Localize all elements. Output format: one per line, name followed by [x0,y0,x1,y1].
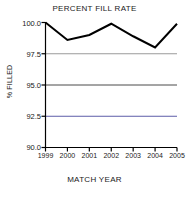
x-tick-label: 2002 [103,152,119,159]
chart-canvas [0,0,189,201]
line-chart: PERCENT FILL RATE % FILLED 100.0 97.5 95… [0,0,189,201]
x-tick-label: 1999 [38,152,54,159]
x-axis-label: MATCH YEAR [0,175,189,184]
data-series-line [46,23,178,48]
x-tick-marks [46,148,178,152]
x-tick-label: 2000 [60,152,76,159]
x-tick-label: 2001 [82,152,98,159]
gridlines [46,54,178,148]
x-tick-label: 2004 [147,152,163,159]
x-tick-label: 2005 [169,152,185,159]
x-tick-label: 2003 [125,152,141,159]
